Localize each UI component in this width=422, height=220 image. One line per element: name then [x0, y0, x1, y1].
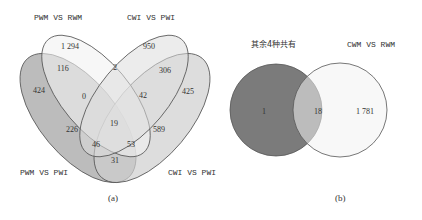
value-226: 226 [66, 125, 78, 134]
venn-b: 其余4种共有 CWM VS RWM 1 18 1 781 (b) [230, 39, 395, 203]
value-306: 306 [159, 66, 171, 75]
value-2: 2 [113, 63, 117, 72]
value-1294: 1 294 [61, 42, 79, 51]
label-cwi-vs-pwi-bottom: CWI VS PWI [168, 168, 216, 177]
caption-b: (b) [335, 193, 346, 203]
value-0: 0 [82, 92, 86, 101]
value-left-only: 1 [262, 107, 266, 116]
value-53: 53 [127, 140, 135, 149]
value-589: 589 [153, 125, 165, 134]
label-cwm-vs-rwm: CWM VS RWM [347, 40, 395, 49]
value-46: 46 [92, 140, 100, 149]
caption-a: (a) [108, 193, 118, 203]
value-intersection: 18 [314, 107, 322, 116]
label-cwi-vs-pwi-top: CWI VS PWI [127, 13, 175, 22]
venn-a: PWM VS RWM CWI VS PWI PWM VS PWI CWI VS … [0, 13, 231, 203]
value-950: 950 [143, 42, 155, 51]
value-425: 425 [182, 87, 194, 96]
value-42: 42 [139, 91, 147, 100]
figure: PWM VS RWM CWI VS PWI PWM VS PWI CWI VS … [0, 0, 422, 220]
value-424: 424 [33, 86, 45, 95]
label-pwm-vs-pwi: PWM VS PWI [20, 168, 68, 177]
value-116: 116 [57, 64, 69, 73]
value-31: 31 [111, 156, 119, 165]
venn-figure: PWM VS RWM CWI VS PWI PWM VS PWI CWI VS … [0, 0, 422, 220]
label-other-four-shared: 其余4种共有 [251, 39, 296, 49]
label-pwm-vs-rwm: PWM VS RWM [34, 13, 82, 22]
value-right-only: 1 781 [356, 107, 374, 116]
value-19: 19 [110, 119, 118, 128]
